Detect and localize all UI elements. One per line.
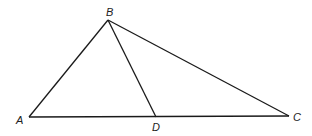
- segment-bc: [108, 20, 289, 116]
- segment-bd: [108, 20, 156, 117]
- label-b: B: [106, 6, 113, 18]
- segment-ac: [29, 116, 289, 117]
- triangle-diagram: A B D C: [0, 0, 312, 136]
- label-a: A: [15, 114, 23, 126]
- label-d: D: [152, 121, 160, 133]
- segment-ab: [29, 20, 108, 117]
- label-c: C: [293, 111, 301, 123]
